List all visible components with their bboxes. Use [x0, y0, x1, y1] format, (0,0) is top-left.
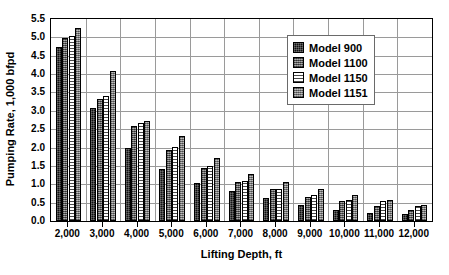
- y-axis-tick-label: 4.0: [31, 68, 45, 79]
- legend-item-label: Model 1150: [309, 72, 368, 84]
- bar: [138, 123, 144, 221]
- bar: [69, 36, 75, 221]
- legend-item-label: Model 1100: [309, 57, 368, 69]
- x-axis-tick-mark: [414, 222, 415, 227]
- plot-area: [50, 18, 433, 222]
- bar: [387, 200, 393, 221]
- bar-group: [120, 19, 155, 221]
- bar: [97, 99, 103, 221]
- bar: [242, 181, 248, 221]
- bar: [263, 198, 269, 222]
- y-axis-tick-label: 2.0: [31, 141, 45, 152]
- bar: [380, 201, 386, 221]
- x-axis-tick-label: 2,000: [55, 228, 80, 239]
- bar-group: [51, 19, 86, 221]
- x-axis-tick-mark: [310, 222, 311, 227]
- bar: [311, 195, 317, 221]
- legend-swatch-icon: [293, 57, 304, 68]
- bar: [298, 205, 304, 221]
- bar: [248, 174, 254, 221]
- x-axis-tick-marks: [50, 222, 433, 227]
- bar: [179, 136, 185, 221]
- y-axis-tick-label: 4.5: [31, 49, 45, 60]
- bar: [235, 182, 241, 221]
- x-axis-tick-label: 3,000: [89, 228, 114, 239]
- bar-chart: Pumping Rate, 1,000 bfpd 0.00.51.01.52.0…: [0, 0, 449, 275]
- y-axis-tick-labels: 0.00.51.01.52.02.53.03.54.04.55.05.5: [18, 18, 48, 222]
- x-axis-tick-label: 9,000: [297, 228, 322, 239]
- bar: [283, 182, 289, 221]
- bar: [305, 197, 311, 221]
- bar: [62, 38, 68, 221]
- bar: [159, 169, 165, 221]
- bar: [276, 189, 282, 221]
- bar: [75, 28, 81, 221]
- y-axis-tick-label: 0.5: [31, 196, 45, 207]
- bar: [103, 96, 109, 221]
- bar-group: [224, 19, 259, 221]
- x-axis-tick-label: 11,000: [364, 228, 394, 239]
- bar: [207, 166, 213, 221]
- x-axis-tick-label: 4,000: [124, 228, 149, 239]
- x-axis-tick-mark: [137, 222, 138, 227]
- legend: Model 900Model 1100Model 1150Model 1151: [287, 35, 375, 105]
- bar: [318, 189, 324, 221]
- bar: [374, 206, 380, 221]
- legend-item[interactable]: Model 1151: [293, 85, 368, 100]
- legend-swatch-icon: [293, 87, 304, 98]
- bar-group: [397, 19, 432, 221]
- legend-item[interactable]: Model 1100: [293, 55, 368, 70]
- bar: [56, 47, 62, 221]
- bar: [402, 214, 408, 221]
- x-axis-tick-mark: [67, 222, 68, 227]
- bar: [90, 108, 96, 221]
- x-axis-tick-label: 12,000: [398, 228, 429, 239]
- bar: [352, 195, 358, 221]
- bar: [194, 183, 200, 221]
- x-axis-title: Lifting Depth, ft: [50, 248, 433, 260]
- y-axis-tick-label: 2.5: [31, 123, 45, 134]
- x-axis-tick-mark: [275, 222, 276, 227]
- bar: [339, 201, 345, 221]
- x-axis-tick-label: 10,000: [329, 228, 360, 239]
- bar: [201, 168, 207, 221]
- x-axis-tick-mark: [206, 222, 207, 227]
- bar: [229, 191, 235, 221]
- bar: [415, 206, 421, 221]
- x-axis-tick-label: 6,000: [193, 228, 218, 239]
- bar: [367, 213, 373, 221]
- legend-item-label: Model 1151: [309, 87, 368, 99]
- legend-swatch-icon: [293, 42, 304, 53]
- y-axis-tick-label: 5.0: [31, 31, 45, 42]
- bar: [214, 158, 220, 221]
- legend-item-label: Model 900: [309, 42, 362, 54]
- bar-group: [190, 19, 225, 221]
- y-axis-title: Pumping Rate, 1,000 bfpd: [0, 0, 20, 238]
- bar: [408, 210, 414, 221]
- legend-item[interactable]: Model 1150: [293, 70, 368, 85]
- bar: [172, 147, 178, 221]
- bar: [110, 71, 116, 221]
- bar-group: [86, 19, 121, 221]
- x-axis-tick-labels: 2,0003,0004,0005,0006,0007,0008,0009,000…: [50, 228, 433, 244]
- x-axis-tick-mark: [379, 222, 380, 227]
- x-axis-tick-label: 5,000: [159, 228, 184, 239]
- x-axis-tick-mark: [102, 222, 103, 227]
- bar: [270, 189, 276, 221]
- y-axis-tick-label: 0.0: [31, 215, 45, 226]
- bar: [421, 205, 427, 221]
- x-axis-tick-label: 8,000: [263, 228, 288, 239]
- bar: [346, 200, 352, 221]
- legend-item[interactable]: Model 900: [293, 40, 368, 55]
- y-axis-tick-label: 5.5: [31, 13, 45, 24]
- y-axis-tick-label: 1.0: [31, 178, 45, 189]
- bar: [125, 148, 131, 221]
- y-axis-tick-label: 3.5: [31, 86, 45, 97]
- bar-group: [155, 19, 190, 221]
- legend-swatch-icon: [293, 72, 304, 83]
- y-axis-tick-label: 1.5: [31, 159, 45, 170]
- x-axis-tick-mark: [171, 222, 172, 227]
- bar: [333, 210, 339, 221]
- bar: [144, 121, 150, 221]
- bar: [166, 150, 172, 221]
